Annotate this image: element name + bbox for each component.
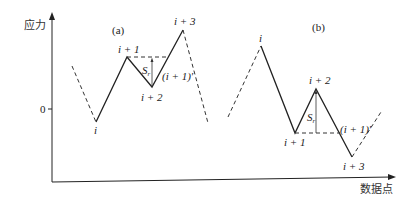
panel-a-title: (a) [112,24,125,37]
panel-a-prime-label: (i + 1)' [162,70,194,83]
panel-a-point-i3: i + 3 [174,15,196,27]
panel-b-load-path [261,46,352,157]
panel-a-range-label: Sr [142,64,151,78]
zero-label: 0 [40,103,46,115]
panel-b-range-label: Sr [307,111,316,125]
panel-a-point-i: i [94,124,97,136]
panel-a-dashed-lead [72,66,96,122]
panel-b-dashed-lead [228,46,261,117]
panel-a-point-i2: i + 2 [141,91,163,103]
x-axis-label: 数据点 [360,182,393,196]
axes [48,16,392,182]
panel-b-prime-label: (i + 1)' [340,123,372,136]
panel-b-point-i: i [259,32,262,44]
panel-b-point-i3: i + 3 [343,160,365,172]
panel-b-point-i1: i + 1 [284,136,305,148]
x-axis [52,177,392,182]
panel-b-point-i2: i + 2 [309,74,331,86]
rainflow-diagram: 应力 0 数据点 (a) i i + 1 i + 2 i + 3 Sr (i +… [0,0,413,204]
panel-b-title: (b) [312,21,325,34]
y-axis-label: 应力 [24,18,46,32]
panel-a-point-i1: i + 1 [118,43,139,55]
